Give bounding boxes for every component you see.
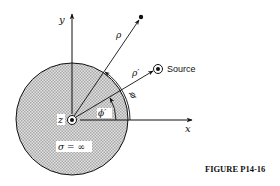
phi-label: ϕ [126, 90, 137, 99]
rho-label: ρ [115, 30, 122, 40]
figure-caption: FIGURE P14-16 [205, 164, 265, 174]
conductivity-label: σ = ∞ [58, 142, 85, 152]
field-point [139, 15, 143, 19]
rho-prime-label: ρ′ [131, 68, 139, 78]
figure-p14-16: y x z ρ ρ′ ϕ ϕ′ Source σ = ∞ FIGURE P14-… [0, 0, 280, 186]
phi-prime-label: ϕ′ [98, 108, 106, 118]
x-axis-label: x [185, 123, 191, 134]
source-marker-dot [156, 67, 160, 71]
source-label: Source [167, 64, 196, 74]
y-axis-label: y [58, 14, 65, 25]
z-axis-label: z [57, 114, 64, 125]
origin-marker-dot [70, 118, 74, 122]
